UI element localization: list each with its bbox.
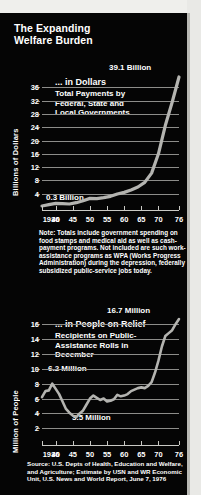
- x-tick-mark: [56, 206, 57, 210]
- y-tick-label: 14: [31, 335, 39, 344]
- chart-dollars: Billions of Dollars ... in Dollars Total…: [0, 13, 187, 228]
- y-tick-label: 8: [35, 379, 39, 388]
- x-tick-label: 70: [154, 450, 162, 459]
- chart-panel: The Expanding Welfare Burden Billions of…: [0, 13, 187, 495]
- chart-dollars-max-value-label: 39.1 Billion: [109, 63, 151, 72]
- x-tick-label: 60: [120, 215, 128, 224]
- chart-note: Note: Totals include government spending…: [39, 229, 187, 275]
- y-tick-label: 16: [31, 149, 39, 158]
- x-tick-label: 55: [103, 215, 111, 224]
- chart-source: Source: U.S. Depts of Health, Education …: [27, 460, 185, 483]
- y-tick-label: 12: [31, 163, 39, 172]
- x-tick-mark: [56, 441, 57, 445]
- welfare-burden-infographic: The Expanding Welfare Burden Billions of…: [0, 0, 201, 495]
- x-tick-label: 65: [137, 215, 145, 224]
- y-tick-label: 4: [35, 409, 39, 418]
- chart-people-plot-area: 246810121416: [42, 319, 179, 432]
- chart-dollars-plot-area: 4812162024283236: [42, 77, 179, 207]
- y-tick-label: 2: [35, 424, 39, 433]
- y-tick-label: 4: [35, 189, 39, 198]
- x-tick-mark: [158, 206, 159, 210]
- x-tick-label: 45: [69, 215, 77, 224]
- x-tick-mark: [124, 441, 125, 445]
- x-tick-label: 70: [154, 215, 162, 224]
- series-line: [42, 77, 179, 207]
- x-tick-mark: [90, 206, 91, 210]
- x-tick-label: 55: [103, 450, 111, 459]
- y-tick-label: 24: [31, 123, 39, 132]
- x-tick-mark: [73, 441, 74, 445]
- x-tick-mark: [124, 206, 125, 210]
- y-tick-label: 8: [35, 176, 39, 185]
- y-tick-label: 28: [31, 109, 39, 118]
- chart-people-max-value-label: 16.7 Million: [107, 306, 150, 315]
- x-tick-mark: [141, 441, 142, 445]
- x-tick-label: 60: [120, 450, 128, 459]
- x-tick-mark: [158, 441, 159, 445]
- paper-top-margin: [0, 0, 201, 13]
- y-tick-label: 20: [31, 136, 39, 145]
- x-tick-label: 65: [137, 450, 145, 459]
- y-tick-label: 12: [31, 349, 39, 358]
- x-tick-mark: [73, 206, 74, 210]
- x-tick-mark: [179, 441, 180, 445]
- x-tick-mark: [42, 206, 43, 210]
- series-line: [42, 319, 179, 432]
- x-tick-mark: [107, 441, 108, 445]
- y-tick-label: 16: [31, 320, 39, 329]
- y-tick-label: 36: [31, 83, 39, 92]
- x-tick-mark: [107, 206, 108, 210]
- chart-dollars-x-axis: [42, 210, 179, 211]
- x-tick-label: 45: [69, 450, 77, 459]
- x-tick-label: 50: [86, 215, 94, 224]
- x-tick-label: 40: [52, 215, 60, 224]
- chart-people-y-axis-title: Million of People: [11, 353, 20, 453]
- chart-people-x-axis: [42, 445, 179, 446]
- y-tick-label: 10: [31, 364, 39, 373]
- x-tick-mark: [90, 441, 91, 445]
- x-tick-label: 50: [86, 450, 94, 459]
- panel-edge-shadow: [187, 13, 190, 495]
- y-tick-label: 32: [31, 96, 39, 105]
- x-tick-mark: [141, 206, 142, 210]
- x-tick-mark: [42, 441, 43, 445]
- x-tick-label: 76: [175, 450, 183, 459]
- chart-dollars-y-axis-title: Billions of Dollars: [11, 86, 20, 196]
- x-tick-mark: [179, 206, 180, 210]
- x-tick-label: 76: [175, 215, 183, 224]
- chart-people: Million of People ... in People on Relie…: [0, 301, 187, 461]
- y-tick-label: 6: [35, 394, 39, 403]
- x-tick-label: 40: [52, 450, 60, 459]
